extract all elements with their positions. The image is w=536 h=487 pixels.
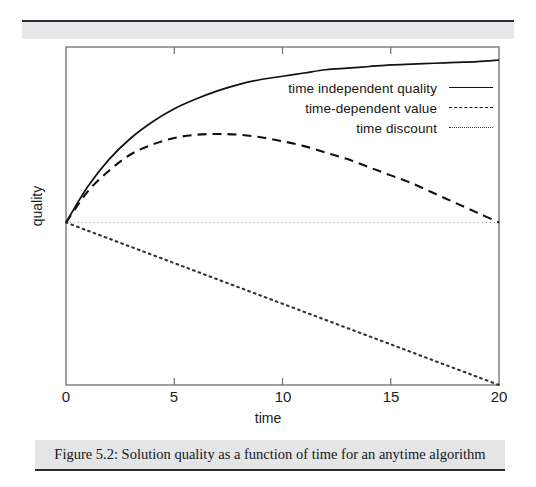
figure-caption: Figure 5.2: Solution quality as a functi… (35, 440, 505, 469)
figure-container: 0 5 10 15 20 time quality time independe… (0, 0, 536, 487)
figure-page: 0 5 10 15 20 time quality time independe… (0, 0, 536, 487)
x-tick-label-5: 5 (154, 388, 194, 405)
legend-item-time-dependent-value: time-dependent value (238, 98, 493, 118)
x-tick-label-15: 15 (371, 388, 411, 405)
x-tick-label-0: 0 (46, 388, 86, 405)
legend-swatch-dashed-line-icon (449, 102, 493, 114)
series-line-time-dependent-value (66, 134, 499, 223)
legend-item-time-discount: time discount (238, 118, 493, 138)
chart-legend: time independent quality time-dependent … (238, 78, 493, 138)
legend-label-0: time independent quality (288, 81, 437, 96)
y-axis-label: quality (29, 176, 45, 236)
legend-label-1: time-dependent value (305, 101, 437, 116)
legend-label-2: time discount (356, 121, 437, 136)
x-tick-label-20: 20 (479, 388, 519, 405)
x-tick-label-10: 10 (263, 388, 303, 405)
x-axis-label: time (238, 410, 298, 426)
legend-swatch-solid-line-icon (449, 82, 493, 94)
legend-swatch-dotted-line-icon (449, 122, 493, 134)
legend-item-time-independent-quality: time independent quality (238, 78, 493, 98)
page-bottom-rule (35, 469, 505, 471)
series-line-time-discount (66, 223, 499, 386)
